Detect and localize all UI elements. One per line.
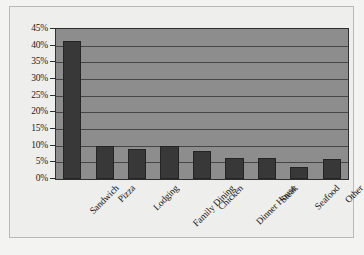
x-tick-label: Sandwich: [88, 183, 122, 217]
figure-frame: 0%5%10%15%20%25%30%35%40%45% SandwichPiz…: [9, 6, 354, 238]
bar: [225, 158, 243, 179]
bar: [63, 41, 81, 179]
bar-slot: [251, 29, 283, 179]
bar: [323, 159, 341, 179]
y-axis: 0%5%10%15%20%25%30%35%40%45%: [10, 7, 55, 181]
bar: [160, 146, 178, 179]
bar-slot: [153, 29, 185, 179]
x-tick-label: Other: [343, 183, 364, 206]
y-tick-label: 35%: [31, 56, 48, 66]
bar-slot: [88, 29, 120, 179]
bar-slot: [218, 29, 250, 179]
bar: [258, 158, 276, 179]
y-tick-label: 5%: [36, 156, 48, 166]
y-tick-label: 30%: [31, 73, 48, 83]
bar: [96, 146, 114, 179]
y-tick-label: 15%: [31, 123, 48, 133]
x-tick-label: Lodging: [151, 183, 181, 213]
y-tick-label: 10%: [31, 140, 48, 150]
bar: [290, 167, 308, 179]
plot-area: [55, 28, 349, 180]
bar-slot: [283, 29, 315, 179]
bar-chart-figure: 0%5%10%15%20%25%30%35%40%45% SandwichPiz…: [0, 0, 364, 255]
bars-group: [56, 29, 348, 179]
x-tick-label: Seafood: [313, 183, 342, 212]
bar-slot: [186, 29, 218, 179]
y-tick-label: 0%: [36, 173, 48, 183]
x-tick-label: Pizza: [116, 183, 138, 205]
bar: [128, 149, 146, 179]
x-axis: SandwichPizzaLodgingFamily DiningChicken…: [55, 181, 349, 243]
y-tick-label: 20%: [31, 106, 48, 116]
bar-slot: [121, 29, 153, 179]
y-tick-label: 40%: [31, 40, 48, 50]
bar-slot: [56, 29, 88, 179]
bar-slot: [316, 29, 348, 179]
y-tick-label: 25%: [31, 90, 48, 100]
bar: [193, 151, 211, 179]
y-tick-label: 45%: [31, 23, 48, 33]
